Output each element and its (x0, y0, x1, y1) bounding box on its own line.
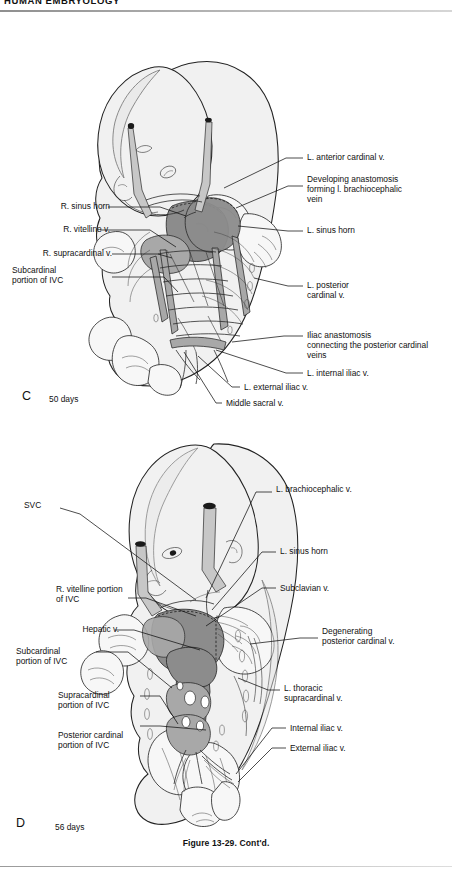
panel-d-days: 56 days (55, 822, 84, 832)
panel-c-label-subcardinal-portion-of-ivc: Subcardinal portion of IVC (12, 265, 112, 285)
panel-c-label-r-vitelline-v: R. vitelline v. (14, 224, 110, 234)
panel-c-label-r-sinus-horn: R. sinus horn (22, 201, 110, 211)
panel-c-label-iliac-anastomosis: Iliac anastomosis connecting the posteri… (307, 330, 452, 361)
panel-d-label-posterior-cardinal-portion-of-ivc: Posterior cardinal portion of IVC (58, 730, 144, 750)
panel-c-label-l-anterior-cardinal-v: L. anterior cardinal v. (307, 152, 449, 162)
panel-c-label-developing-anastomosis: Developing anastomosis forming l. brachi… (307, 174, 447, 205)
panel-c-label-r-supracardinal-v: R. supracardinal v. (2, 248, 112, 258)
panel-d-label-degenerating-posterior-cardinal-v: Degenerating posterior cardinal v. (322, 626, 448, 646)
panel-d-label-l-brachiocephalic-v: L. brachiocephalic v. (276, 484, 426, 494)
panel-d-label-l-thoracic-supracardinal-v: L. thoracic supracardinal v. (284, 683, 400, 703)
footer-rule (0, 866, 452, 867)
panel-d-label-supracardinal-portion-of-ivc: Supracardinal portion of IVC (58, 690, 142, 710)
panel-c-label-l-sinus-horn: L. sinus horn (307, 225, 437, 235)
panel-c-label-l-external-iliac-v: L. external iliac v. (244, 382, 370, 392)
panel-d-label-r-vitelline-portion-of-ivc: R. vitelline portion of IVC (56, 584, 134, 604)
panel-d-label-l-sinus-horn: L. sinus horn (280, 546, 400, 556)
figure-page: HUMAN EMBRYOLOGY (0, 0, 452, 880)
panel-d-label-hepatic-v: Hepatic v. (57, 624, 119, 634)
panel-c-label-l-internal-iliac-v: L. internal iliac v. (307, 368, 433, 378)
panel-d-letter: D (16, 816, 25, 830)
panel-d-label-svc: SVC (24, 500, 84, 510)
panel-c-label-l-posterior-cardinal-v: L. posterior cardinal v. (307, 280, 427, 300)
panel-c-illustration (0, 0, 452, 430)
panel-c-days: 50 days (49, 394, 78, 404)
panel-d-label-external-iliac-v: External iliac v. (290, 743, 406, 753)
panel-c-label-middle-sacral-v: Middle sacral v. (226, 398, 346, 408)
panel-d-label-subclavian-v: Subclavian v. (280, 583, 400, 593)
panel-d-label-subcardinal-portion-of-ivc: Subcardinal portion of IVC (16, 646, 98, 666)
panel-d-label-internal-iliac-v: Internal iliac v. (290, 723, 406, 733)
panel-c-letter: C (22, 389, 31, 403)
figure-caption: Figure 13-29. Cont'd. (0, 838, 452, 848)
